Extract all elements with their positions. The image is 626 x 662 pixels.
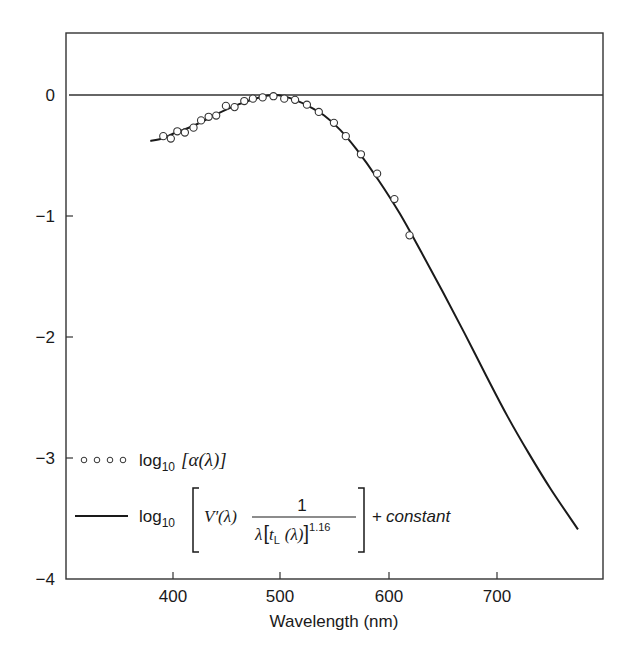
data-point bbox=[406, 232, 413, 239]
data-point bbox=[190, 124, 197, 131]
plot-frame bbox=[66, 33, 603, 579]
data-point bbox=[174, 128, 181, 135]
legend: log10[α(λ)] log10 V′(λ) 1 λ[tL(λ)]1.16 +… bbox=[75, 449, 451, 552]
data-point bbox=[281, 95, 288, 102]
data-point bbox=[167, 135, 174, 142]
data-point bbox=[270, 93, 277, 100]
svg-text:+constant: +constant bbox=[372, 507, 451, 526]
x-tick-label: 400 bbox=[159, 587, 187, 606]
x-tick-label: 700 bbox=[483, 587, 511, 606]
y-tick-label: −1 bbox=[36, 207, 55, 226]
legend-item-line: log10 V′(λ) 1 λ[tL(λ)]1.16 +constant bbox=[75, 488, 451, 552]
svg-text:log10[α(λ)]: log10[α(λ)] bbox=[139, 449, 227, 474]
x-axis: 400 500 600 700 Wavelength (nm) bbox=[159, 572, 511, 631]
data-point bbox=[197, 117, 204, 124]
data-point bbox=[249, 95, 256, 102]
svg-text:V′(λ): V′(λ) bbox=[204, 507, 237, 526]
data-points bbox=[160, 93, 413, 239]
y-tick-label: −4 bbox=[36, 570, 55, 589]
data-point bbox=[231, 104, 238, 111]
y-tick-label: −3 bbox=[36, 449, 55, 468]
y-tick-label: 0 bbox=[46, 86, 55, 105]
data-point bbox=[213, 112, 220, 119]
svg-text:1: 1 bbox=[297, 496, 306, 515]
data-point bbox=[391, 195, 398, 202]
y-tick-label: −2 bbox=[36, 328, 55, 347]
data-point bbox=[374, 170, 381, 177]
x-axis-title: Wavelength (nm) bbox=[270, 612, 399, 631]
data-point bbox=[291, 96, 298, 103]
legend-item-circles: log10[α(λ)] bbox=[81, 449, 227, 474]
data-point bbox=[303, 101, 310, 108]
data-point bbox=[259, 94, 266, 101]
svg-text:λ[tL(λ)]1.16: λ[tL(λ)]1.16 bbox=[254, 521, 330, 546]
data-point bbox=[342, 133, 349, 140]
data-point bbox=[315, 108, 322, 115]
chart: 0 −1 −2 −3 −4 400 500 600 700 Wavelength… bbox=[0, 0, 626, 662]
data-point bbox=[357, 151, 364, 158]
data-point bbox=[330, 119, 337, 126]
x-tick-label: 500 bbox=[266, 587, 294, 606]
data-point bbox=[241, 97, 248, 104]
y-axis: 0 −1 −2 −3 −4 bbox=[36, 86, 73, 589]
svg-text:log10: log10 bbox=[139, 507, 175, 530]
data-point bbox=[160, 133, 167, 140]
data-point bbox=[205, 113, 212, 120]
data-point bbox=[181, 129, 188, 136]
x-tick-label: 600 bbox=[375, 587, 403, 606]
data-point bbox=[222, 102, 229, 109]
